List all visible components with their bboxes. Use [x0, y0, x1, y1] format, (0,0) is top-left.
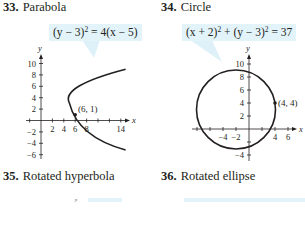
problem-number: 36. — [161, 169, 177, 183]
tick-label: 14 — [117, 124, 126, 134]
x-axis-arrow-icon — [292, 127, 297, 131]
y-axis-label: y — [37, 43, 42, 53]
tick-label: −2 — [231, 132, 240, 142]
equation-box-partial — [184, 198, 305, 202]
x-axis-label: x — [298, 124, 303, 134]
tick-label: 6 — [73, 124, 77, 134]
tick-label: 6 — [32, 81, 36, 91]
tick-label: 6 — [286, 132, 290, 142]
equation-box-partial — [88, 198, 122, 202]
tick-label: 2 — [240, 111, 244, 121]
tick-label: 2 — [50, 124, 54, 134]
point-label: (4, 4) — [278, 98, 298, 108]
tick-label: 8 — [32, 70, 36, 80]
equation-box: (y − 3)2 = 4(x − 5) — [49, 24, 142, 41]
y-axis-arrow-icon — [247, 54, 251, 59]
y-axis-label: y — [245, 43, 250, 53]
tick-label: 6 — [240, 85, 244, 95]
x-axis-label: x — [131, 115, 136, 125]
tick-label: 2 — [32, 104, 36, 114]
equation-rhs: = 4(x − 5) — [88, 26, 137, 38]
equation-term: (x + 2) — [186, 26, 217, 38]
circle-labels: y x 10 8 6 4 2 −4 −4 −2 4 6 (4, 4) — [218, 43, 303, 160]
x-axis-arrow-icon — [125, 119, 130, 123]
problem-title: Rotated ellipse — [181, 169, 256, 183]
equation-rhs: = 37 — [269, 26, 293, 38]
tick-label: 4 — [62, 124, 67, 134]
tick-label: 10 — [236, 59, 245, 69]
tick-label: −4 — [235, 150, 245, 160]
problem-number: 35. — [3, 169, 19, 183]
tick-label: 8 — [240, 72, 244, 82]
equation-callout-pointer — [82, 40, 100, 58]
equation-term: (y − 3) — [233, 26, 264, 38]
equation-term: (y − 3) — [53, 26, 84, 38]
tick-label: −2 — [27, 127, 36, 137]
parabola-labels: y x 10 8 6 4 2 −2 −4 −6 2 4 6 8 14 (6, 1… — [27, 43, 136, 160]
tick-label: 4 — [273, 132, 278, 142]
tick-label: −4 — [27, 138, 37, 148]
tick-label: 8 — [84, 124, 88, 134]
point-marker — [73, 113, 77, 117]
equation-callout-pointer — [190, 40, 222, 62]
y-axis-arrow-icon — [39, 54, 43, 59]
plus-sign: + — [221, 26, 233, 38]
y-axis-label-partial: y — [74, 197, 78, 202]
point-marker — [273, 101, 277, 105]
tick-label: 4 — [240, 98, 245, 108]
tick-label: −6 — [27, 150, 36, 160]
equation-box: (x + 2)2 + (y − 3)2 = 37 — [182, 24, 296, 41]
tick-label: −4 — [218, 132, 228, 142]
point-label: (6, 1) — [78, 104, 98, 114]
tick-label: 4 — [32, 93, 37, 103]
problem-35-title: 35.Rotated hyperbola — [3, 169, 115, 184]
problem-title: Rotated hyperbola — [23, 169, 115, 183]
tick-label: 10 — [28, 59, 37, 69]
problem-36-title: 36.Rotated ellipse — [161, 169, 255, 184]
